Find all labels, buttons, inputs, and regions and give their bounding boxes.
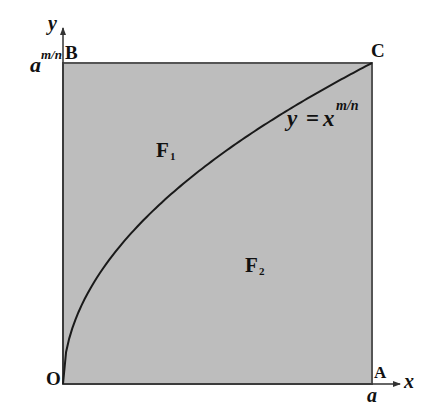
region-f2-letter: F	[245, 253, 258, 277]
curve-eq-equals: =	[306, 106, 319, 131]
point-a-label: A	[374, 363, 387, 382]
curve-eq-exp: m/n	[336, 98, 359, 113]
x-tick-a: a	[367, 384, 377, 406]
y-tick-exp: m/n	[41, 47, 62, 62]
curve-eq-lhs: y	[284, 106, 298, 131]
region-f1-letter: F	[156, 138, 169, 162]
curve-eq-base: x	[322, 106, 335, 131]
y-tick-base: a	[30, 52, 41, 77]
point-c-label: C	[371, 40, 385, 61]
x-axis-label: x	[403, 370, 414, 392]
y-axis-label: y	[46, 12, 57, 35]
region-f1-sub: 1	[170, 150, 176, 162]
point-o-label: O	[46, 368, 61, 389]
diagram-canvas: y x B C O A a a m/n y = x m/n F 1 F 2	[0, 0, 442, 417]
point-b-label: B	[65, 42, 78, 63]
region-f2-sub: 2	[259, 265, 265, 277]
